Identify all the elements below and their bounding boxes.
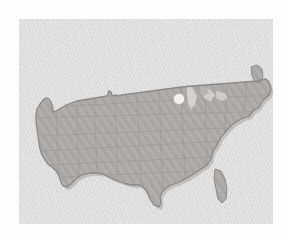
us-map-graphic — [19, 19, 273, 224]
location-marker[interactable] — [174, 94, 184, 104]
figure-canvas — [0, 0, 286, 239]
florida-peninsula — [214, 169, 227, 203]
map-landmass — [19, 19, 273, 224]
map-panel — [19, 19, 273, 224]
